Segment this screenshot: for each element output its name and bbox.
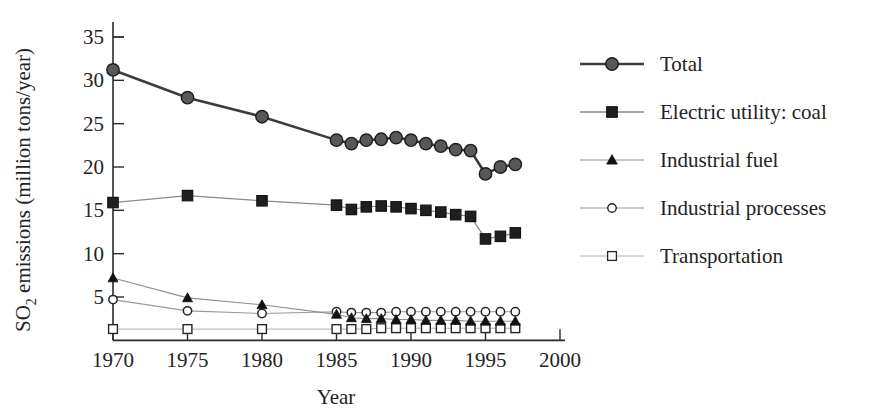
data-point-marker xyxy=(420,137,432,149)
data-point-marker xyxy=(392,324,401,333)
data-point-marker xyxy=(479,168,491,180)
legend-item-label: Total xyxy=(646,52,703,77)
data-point-marker xyxy=(347,325,356,334)
x-tick-label: 1975 xyxy=(167,348,209,372)
data-point-marker xyxy=(109,295,117,303)
data-point-marker xyxy=(330,134,342,146)
open-square-icon xyxy=(578,244,646,268)
data-point-marker xyxy=(451,209,461,219)
y-axis-title: SO2 emissions (million tons/year) xyxy=(11,48,39,332)
data-point-marker xyxy=(480,234,490,244)
data-point-marker xyxy=(494,161,506,173)
legend-item-label: Industrial fuel xyxy=(646,148,778,173)
data-point-marker xyxy=(258,325,267,334)
data-point-marker xyxy=(183,307,191,315)
y-axis-title-main: SO xyxy=(11,305,35,332)
data-point-marker xyxy=(405,134,417,146)
y-tick-label: 5 xyxy=(94,285,105,309)
data-point-marker xyxy=(436,324,445,333)
data-point-marker xyxy=(345,137,357,149)
data-point-marker xyxy=(376,201,386,211)
data-point-marker xyxy=(375,133,387,145)
x-axis-title: Year xyxy=(317,385,356,409)
svg-text:SO2 emissions (million tons/ye: SO2 emissions (million tons/year) xyxy=(11,48,39,332)
data-point-marker xyxy=(495,231,505,241)
data-point-marker xyxy=(510,228,520,238)
y-tick-label: 15 xyxy=(83,198,104,222)
series-industrial-fuel xyxy=(108,273,520,325)
series-line xyxy=(113,70,515,174)
data-point-marker xyxy=(331,200,341,210)
series-electric-utility-coal xyxy=(108,190,521,244)
data-point-marker xyxy=(421,205,431,215)
data-point-marker xyxy=(108,197,118,207)
y-tick-label: 10 xyxy=(83,242,104,266)
y-tick-label: 20 xyxy=(83,155,104,179)
filled-square-icon xyxy=(578,100,646,124)
so2-emissions-chart-figure: 5101520253035197019751980198519901995200… xyxy=(0,0,875,412)
data-point-marker xyxy=(496,308,504,316)
open-circle-icon xyxy=(578,196,646,220)
data-point-marker xyxy=(107,64,119,76)
data-point-marker xyxy=(435,140,447,152)
legend-item-total[interactable]: Total xyxy=(578,40,868,88)
y-axis-title-subscript: 2 xyxy=(24,298,39,305)
filled-circle-icon xyxy=(578,52,646,76)
data-point-marker xyxy=(406,203,416,213)
series-total xyxy=(107,64,522,180)
data-point-marker xyxy=(109,325,118,334)
data-point-marker xyxy=(511,308,519,316)
data-point-marker xyxy=(181,91,193,103)
series-transportation xyxy=(109,324,520,334)
data-point-marker xyxy=(362,325,371,334)
data-point-marker xyxy=(465,211,475,221)
data-point-marker xyxy=(390,131,402,143)
data-point-marker xyxy=(183,325,192,334)
series-industrial-processes xyxy=(109,295,520,317)
data-point-marker xyxy=(257,196,267,206)
chart-series xyxy=(107,64,522,334)
data-point-marker xyxy=(464,144,476,156)
data-point-marker xyxy=(466,308,474,316)
data-point-marker xyxy=(256,111,268,123)
chart-legend: TotalElectric utility: coalIndustrial fu… xyxy=(578,40,868,280)
legend-item-electric-utility-coal[interactable]: Electric utility: coal xyxy=(578,88,868,136)
data-point-marker xyxy=(346,204,356,214)
legend-item-industrial-processes[interactable]: Industrial processes xyxy=(578,184,868,232)
data-point-marker xyxy=(360,134,372,146)
data-point-marker xyxy=(450,143,462,155)
data-point-marker xyxy=(451,315,461,324)
data-point-marker xyxy=(108,273,118,282)
data-point-marker xyxy=(407,324,416,333)
legend-item-label: Industrial processes xyxy=(646,196,826,221)
data-point-marker xyxy=(451,324,460,333)
data-point-marker xyxy=(361,202,371,212)
data-point-marker xyxy=(182,190,192,200)
y-tick-label: 35 xyxy=(83,25,104,49)
legend-item-label: Electric utility: coal xyxy=(646,100,827,125)
legend-item-label: Transportation xyxy=(646,244,783,269)
legend-item-transportation[interactable]: Transportation xyxy=(578,232,868,280)
x-tick-label: 1980 xyxy=(241,348,283,372)
data-point-marker xyxy=(332,325,341,334)
x-tick-label: 1970 xyxy=(92,348,134,372)
data-point-marker xyxy=(481,308,489,316)
y-axis-title-rest: emissions (million tons/year) xyxy=(11,48,35,298)
y-tick-label: 25 xyxy=(83,112,104,136)
data-point-marker xyxy=(258,309,266,317)
chart-axes xyxy=(113,22,565,340)
data-point-marker xyxy=(436,315,446,324)
filled-triangle-icon xyxy=(578,148,646,172)
data-point-marker xyxy=(436,207,446,217)
legend-item-industrial-fuel[interactable]: Industrial fuel xyxy=(578,136,868,184)
data-point-marker xyxy=(422,324,431,333)
data-point-marker xyxy=(377,324,386,333)
data-point-marker xyxy=(391,202,401,212)
x-tick-label: 1990 xyxy=(390,348,432,372)
y-tick-label: 30 xyxy=(83,68,104,92)
x-tick-label: 1985 xyxy=(316,348,358,372)
x-tick-label: 2000 xyxy=(539,348,581,372)
x-tick-label: 1995 xyxy=(465,348,507,372)
data-point-marker xyxy=(509,158,521,170)
